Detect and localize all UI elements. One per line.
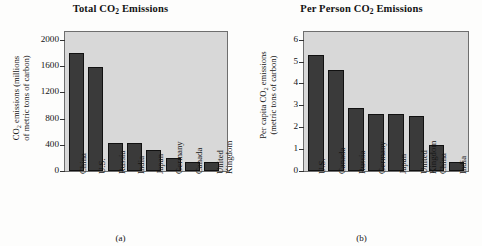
x-axis-label-russia: Russia [358, 151, 367, 174]
panel-b-y-axis-label-line2: (metric tons of carbon) [269, 30, 279, 160]
bar-u-s [308, 55, 324, 171]
x-axis-label-japan: Japan [156, 154, 165, 174]
panel-a-y-axis-label-line2: of metric tons of carbon) [22, 28, 32, 168]
panel-a-y-tick-mark [60, 66, 65, 67]
panel-b-y-tick-mark [299, 149, 304, 150]
panel-b-y-tick-mark [299, 83, 304, 84]
x-axis-label-india: India [137, 156, 146, 174]
x-axis-label-japan: Japan [399, 154, 408, 174]
panel-b-y-axis-label-line1-pre: Per capita CO [258, 91, 268, 139]
panel-a-y-tick-mark [60, 40, 65, 41]
panel-a-y-tick-label: 400 [45, 140, 59, 149]
panel-a-y-tick-mark [60, 171, 65, 172]
panel-b-y-tick-mark [299, 62, 304, 63]
x-axis-label-line: U.S. [317, 158, 327, 174]
panel-b-caption: (b) [241, 233, 482, 243]
panel-a-y-tick-label: 0 [54, 166, 59, 175]
x-axis-label-line: India [136, 156, 146, 174]
panel-b-title-subscript: 2 [370, 7, 374, 16]
panel-b-y-tick-mark [299, 171, 304, 172]
panel-a-y-axis-label-subscript: 2 [15, 125, 22, 128]
x-axis-label-germany: Germany [378, 141, 387, 174]
x-axis-label-germany: Germany [175, 141, 184, 174]
panel-a-y-axis-label-line1-post: emissions (millions [11, 56, 21, 125]
panel-b-y-tick-mark [299, 105, 304, 106]
panel-a-y-axis-label-line1-pre: CO [11, 128, 21, 140]
x-axis-label-line: Kingdom [225, 141, 234, 174]
x-axis-label-russia: Russia [118, 151, 127, 174]
panel-a-title: Total CO2 Emissions [0, 3, 241, 14]
x-axis-label-u-s: U.S. [318, 158, 327, 174]
panel-a-y-tick-label: 1600 [41, 61, 59, 70]
x-axis-label-line: China [78, 153, 88, 174]
x-axis-label-line: Japan [398, 154, 408, 174]
x-axis-label-china: China [439, 153, 448, 174]
panel-b-y-tick-label: 5 [293, 57, 298, 66]
panel-a-title-post: Emissions [119, 3, 168, 14]
panel-b-y-tick-label: 4 [293, 79, 298, 88]
x-axis-label-u-s: U.S. [98, 158, 107, 174]
panel-a-y-tick-label: 1200 [41, 88, 59, 97]
panel-b-y-tick-label: 3 [293, 101, 298, 110]
x-axis-label-line: Japan [155, 154, 165, 174]
x-axis-label-line: India [458, 156, 468, 174]
panel-b-y-tick-label: 0 [293, 166, 298, 175]
panel-b-y-tick-mark [299, 40, 304, 41]
x-axis-label-united-kingdom: UnitedKingdom [216, 141, 235, 174]
x-axis-label-china: China [79, 153, 88, 174]
panel-a-y-tick-label: 800 [45, 114, 59, 123]
panel-a-y-tick-label: 2000 [41, 35, 59, 44]
x-axis-label-canada: Canada [195, 148, 204, 174]
panel-a-caption: (a) [0, 233, 241, 243]
x-axis-label-line: United [215, 150, 225, 174]
x-axis-label-line: China [438, 153, 448, 174]
bar-u-s [88, 67, 103, 171]
figure-two-panel-bar-charts: Total CO2 Emissions CO2 emissions (milli… [0, 0, 482, 246]
panel-b-y-axis-label-line1-post: emissions [258, 51, 268, 87]
panel-b-y-tick-label: 6 [293, 35, 298, 44]
panel-a-y-tick-mark [60, 119, 65, 120]
panel-b-y-axis-label: Per capita CO2 emissions (metric tons of… [259, 30, 278, 160]
panel-a-y-tick-mark [60, 145, 65, 146]
x-axis-label-line: Canada [337, 148, 347, 174]
x-axis-label-india: India [459, 156, 468, 174]
x-axis-label-united-kingdom: UnitedKingdom [420, 141, 439, 174]
panel-a-total-emissions: Total CO2 Emissions CO2 emissions (milli… [0, 0, 241, 246]
x-axis-label-canada: Canada [338, 148, 347, 174]
panel-b-title-pre: Per Person CO [300, 3, 369, 14]
x-axis-label-line: U.S. [97, 158, 107, 174]
panel-b-y-tick-label: 2 [293, 123, 298, 132]
panel-b-title-post: Emissions [374, 3, 423, 14]
panel-b-y-tick-mark [299, 127, 304, 128]
panel-b-per-person-emissions: Per Person CO2 Emissions Per capita CO2 … [241, 0, 482, 246]
x-axis-label-line: Russia [357, 151, 367, 174]
x-axis-label-line: Canada [194, 148, 204, 174]
panel-a-y-axis-label: CO2 emissions (millions of metric tons o… [12, 28, 31, 168]
panel-b-y-tick-label: 1 [293, 145, 298, 154]
x-axis-label-line: Russia [117, 151, 127, 174]
panel-a-title-subscript: 2 [115, 7, 119, 16]
panel-b-title: Per Person CO2 Emissions [241, 3, 482, 14]
x-axis-label-line: Germany [377, 141, 387, 174]
panel-a-title-pre: Total CO [73, 3, 116, 14]
x-axis-label-line: Germany [174, 141, 184, 174]
panel-a-y-tick-mark [60, 92, 65, 93]
